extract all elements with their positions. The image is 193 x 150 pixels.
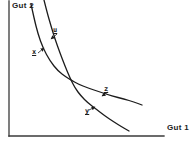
y-axis-label: Gut 2 [12, 2, 34, 10]
indifference-curve-x-z [31, 4, 142, 105]
point-label-y: y [85, 108, 89, 115]
pointer-arrow-x [38, 48, 44, 53]
point-label-z: z [104, 86, 108, 93]
indifference-curve-plot [0, 0, 193, 150]
point-label-u: u [53, 27, 57, 34]
x-axis-label: Gut 1 [167, 124, 189, 132]
pointer-arrow-y [89, 107, 95, 110]
point-label-x: x [32, 49, 36, 56]
diagram-canvas: Gut 2 Gut 1 u x z y [0, 0, 193, 150]
